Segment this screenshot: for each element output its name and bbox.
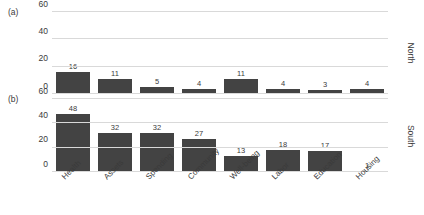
bar: [224, 79, 258, 94]
side-label-south: South: [406, 124, 416, 146]
panel-letter-b: (b): [8, 95, 18, 104]
y-tick-label: 0: [22, 160, 48, 169]
bar-slot: 4: [178, 12, 220, 94]
gridline: [52, 147, 388, 148]
gridline: [52, 38, 388, 39]
bar-slot: 3: [304, 12, 346, 94]
side-label-north: North: [407, 43, 417, 64]
bar-value-label: 18: [279, 141, 287, 149]
bar-value-label: 48: [69, 105, 77, 113]
bar-value-label: 3: [323, 81, 327, 89]
gridline: [52, 11, 388, 12]
bar-chart-figure: (a) 0204060 16115411434 North (b) 020406…: [0, 0, 424, 215]
bar-value-label: 11: [111, 70, 119, 78]
bar-value-label: 4: [365, 80, 369, 88]
bar-slot: 4: [262, 12, 304, 94]
gridline: [52, 122, 388, 123]
x-tick-label: Labor: [262, 172, 304, 215]
bar-value-label: 11: [237, 70, 245, 78]
y-tick-label: 40: [22, 111, 48, 120]
x-tick-label: Housing: [346, 172, 388, 215]
y-axis-panel-b: 0204060: [18, 99, 48, 172]
x-tick-label: Health: [52, 172, 94, 215]
bar-value-label: 16: [69, 63, 77, 71]
y-axis-panel-a: 0204060: [18, 12, 48, 94]
gridline: [52, 66, 388, 67]
y-tick-label: 20: [22, 135, 48, 144]
panel-letter-a: (a): [8, 8, 18, 17]
bar-group-panel-a: 16115411434: [52, 12, 388, 94]
bar-value-label: 32: [111, 124, 119, 132]
bar-slot: 4: [346, 12, 388, 94]
bar-value-label: 5: [155, 78, 159, 86]
y-tick-label: 20: [22, 54, 48, 63]
gridline: [52, 98, 388, 99]
bar: [98, 79, 132, 94]
plot-area-panel-a: 16115411434: [52, 12, 388, 94]
bar-slot: 11: [220, 12, 262, 94]
x-axis-category-labels: HealthAssetsSpendingCommunityWell-beingL…: [52, 172, 388, 215]
x-tick-label: Education: [304, 172, 346, 215]
gridline: [52, 93, 388, 94]
bar-value-label: 27: [195, 130, 203, 138]
bar-value-label: 13: [237, 147, 245, 155]
bar-value-label: 4: [281, 80, 285, 88]
x-tick-label: Well-being: [220, 172, 262, 215]
y-tick-label: 40: [22, 27, 48, 36]
x-tick-label: Assets: [94, 172, 136, 215]
bar-value-label: 4: [197, 80, 201, 88]
bar-slot: 5: [136, 12, 178, 94]
x-tick-label: Community: [178, 172, 220, 215]
bar-value-label: 32: [153, 124, 161, 132]
x-tick-label: Spending: [136, 172, 178, 215]
bar-slot: 16: [52, 12, 94, 94]
bar: [56, 72, 90, 94]
y-tick-label: 60: [22, 87, 48, 96]
bar-slot: 11: [94, 12, 136, 94]
y-tick-label: 60: [22, 0, 48, 8]
panel-north: (a) 0204060 16115411434 North: [0, 12, 424, 94]
